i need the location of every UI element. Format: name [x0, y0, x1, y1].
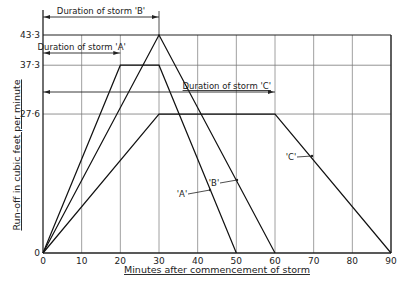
duration-annotations: Duration of storm 'B'Duration of storm '… [38, 6, 275, 94]
leader-line [188, 190, 210, 194]
series-line-a [43, 65, 236, 253]
y-tick-label: 0 [34, 248, 40, 258]
x-tick-label: 10 [76, 256, 88, 266]
y-tick-label: 27·6 [20, 109, 40, 119]
y-tick-label: 43·3 [20, 30, 40, 40]
leader-line [220, 180, 237, 183]
leader-arrow-icon [236, 179, 238, 181]
duration-label: Duration of storm 'C' [183, 81, 271, 91]
x-tick-label: 90 [385, 256, 397, 266]
y-tick-label: 37·3 [20, 60, 40, 70]
line-label-a: 'A' [177, 189, 188, 199]
runoff-chart: 0102030405060708090027·637·343·3 Duratio… [0, 0, 403, 282]
duration-label: Duration of storm 'B' [57, 6, 145, 16]
leader-arrow-icon [311, 155, 313, 157]
arrowhead-right-icon [152, 15, 158, 19]
x-axis-label: Minutes after commencement of storm [124, 264, 310, 275]
series-lines [43, 35, 391, 253]
duration-label: Duration of storm 'A' [38, 42, 126, 52]
x-tick-label: 80 [347, 256, 359, 266]
line-label-b: 'B' [209, 178, 220, 188]
y-axis-label: Run-off in cubic feet per minute [11, 79, 22, 230]
leader-line [297, 156, 312, 157]
arrowhead-left-icon [44, 90, 50, 94]
line-label-c: 'C' [286, 152, 297, 162]
arrowhead-left-icon [44, 15, 50, 19]
x-tick-label: 0 [40, 256, 46, 266]
leader-arrow-icon [209, 189, 211, 191]
